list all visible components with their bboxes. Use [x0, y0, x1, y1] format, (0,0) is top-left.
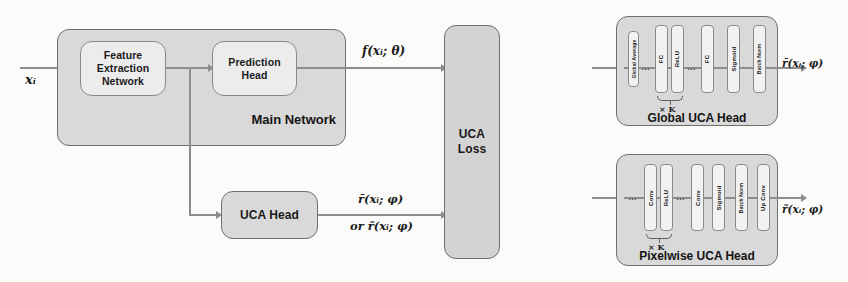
figure-canvas: xᵢ Feature Extraction Network Prediction… — [0, 0, 848, 282]
main-output-label: f(xᵢ; θ) — [362, 44, 405, 58]
branch-vertical-line — [189, 67, 191, 215]
global-uca-head-block-global-average-label: Global Average — [631, 39, 637, 78]
branch-to-uca-head-line — [189, 214, 218, 216]
pixelwise-head-output-arrow — [801, 194, 807, 202]
pixelwise-uca-head-block-batch-norm-label: Batch Norm — [739, 182, 745, 212]
prediction-head-box: Prediction Head — [212, 41, 297, 96]
uca-head-label: UCA Head — [240, 208, 299, 223]
pixelwise-uca-head-block-relu: ReLU — [660, 164, 673, 231]
global-uca-head-block-fc-2-label: FC — [705, 55, 711, 63]
uca-head-box: UCA Head — [221, 191, 318, 239]
pixelwise-uca-head-ellipsis-1: … — [628, 192, 638, 202]
pixelwise-uca-head-block-sigmoid-label: Sigmoid — [716, 185, 722, 210]
global-uca-head-block-global-average: Global Average — [628, 31, 639, 87]
uca-loss-box: UCA Loss — [444, 25, 500, 259]
global-uca-head-ellipsis-1: … — [641, 62, 651, 72]
global-uca-head-title: Global UCA Head — [616, 111, 778, 125]
prediction-head-label: Prediction Head — [228, 56, 280, 82]
global-uca-head-block-batch-norm-label: Batch Norm — [757, 44, 763, 74]
pixelwise-uca-head-block-conv-1: Conv — [644, 164, 657, 231]
uca-head-output-label-secondary: or r̃(xᵢ; φ) — [350, 219, 413, 233]
feature-extraction-network-label: Feature Extraction Network — [97, 49, 149, 87]
pixelwise-uca-head-output-label: r̃(xᵢ; φ) — [782, 203, 823, 215]
global-uca-head-ellipsis-2: … — [687, 62, 697, 72]
uca-head-output-line — [318, 214, 443, 216]
global-uca-head-output-label: r̄(xᵢ; φ) — [782, 57, 823, 69]
global-uca-head-block-relu-label: ReLU — [675, 51, 681, 67]
global-uca-head-block-relu: ReLU — [671, 25, 684, 93]
pixelwise-uca-head-block-conv-1-label: Conv — [648, 190, 654, 206]
pixelwise-uca-head-ellipsis-2: … — [676, 192, 686, 202]
global-uca-head-block-fc-1-label: FC — [659, 55, 665, 63]
pixelwise-uca-head-block-conv-2: Conv — [691, 164, 704, 231]
pixelwise-uca-head-block-up-conv: Up Conv — [757, 164, 770, 231]
pixelwise-uca-head-title: Pixelwise UCA Head — [616, 249, 778, 263]
uca-head-output-label-primary: r̄(xᵢ; φ) — [358, 192, 403, 206]
main-network-title: Main Network — [216, 112, 336, 127]
main-output-line — [297, 67, 443, 69]
pixelwise-uca-head-block-conv-2-label: Conv — [695, 190, 701, 206]
pixelwise-uca-head-block-sigmoid: Sigmoid — [712, 164, 725, 231]
global-uca-head-block-sigmoid-label: Sigmoid — [731, 46, 737, 71]
global-uca-head-block-fc-1: FC — [655, 25, 668, 93]
input-label: xᵢ — [25, 72, 36, 87]
pixelwise-uca-head-block-up-conv-label: Up Conv — [761, 184, 767, 210]
pixelwise-uca-head-block-relu-label: ReLU — [664, 189, 670, 205]
global-uca-head-block-sigmoid: Sigmoid — [727, 25, 740, 93]
global-uca-head-block-batch-norm: Batch Norm — [753, 25, 766, 93]
global-uca-head-block-fc-2: FC — [701, 25, 714, 93]
fen-to-ph-line — [166, 67, 210, 69]
uca-loss-label: UCA Loss — [458, 127, 486, 156]
pixelwise-uca-head-block-batch-norm: Batch Norm — [735, 164, 748, 231]
feature-extraction-network-box: Feature Extraction Network — [80, 41, 166, 96]
